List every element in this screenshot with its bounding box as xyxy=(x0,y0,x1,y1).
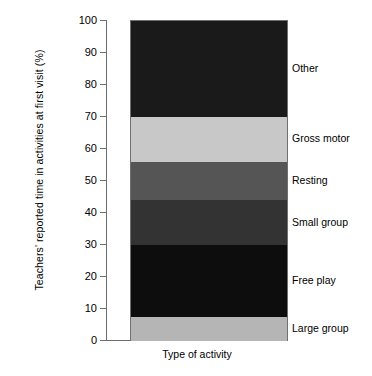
y-tick-mark xyxy=(100,20,106,21)
y-tick-mark xyxy=(100,116,106,117)
y-tick-label: 10 xyxy=(85,302,97,314)
y-tick-label: 70 xyxy=(85,110,97,122)
y-tick-label: 80 xyxy=(85,78,97,90)
y-tick-mark xyxy=(100,212,106,213)
stacked-bar-chart: Teachers' reported time in activities at… xyxy=(0,0,372,376)
segment-label: Other xyxy=(292,62,318,74)
y-axis-line xyxy=(106,20,107,340)
segment-label: Large group xyxy=(292,322,349,334)
y-tick-label: 20 xyxy=(85,270,97,282)
stacked-bar xyxy=(130,20,288,340)
y-tick-label: 100 xyxy=(79,14,97,26)
y-tick-label: 0 xyxy=(91,334,97,346)
segment-label: Free play xyxy=(292,274,336,286)
y-tick-mark xyxy=(100,340,106,341)
y-tick-mark xyxy=(100,180,106,181)
bar-segment xyxy=(131,200,287,245)
segment-label: Gross motor xyxy=(292,132,350,144)
y-tick-label: 40 xyxy=(85,206,97,218)
y-tick-mark xyxy=(100,52,106,53)
y-tick-mark xyxy=(100,276,106,277)
y-axis-title: Teachers' reported time in activities at… xyxy=(26,0,52,340)
segment-label: Small group xyxy=(292,216,348,228)
y-tick-label: 60 xyxy=(85,142,97,154)
y-tick-mark xyxy=(100,308,106,309)
y-tick-mark xyxy=(100,148,106,149)
plot-area: 0102030405060708090100 xyxy=(106,20,288,340)
segment-label: Resting xyxy=(292,174,328,186)
bar-segment xyxy=(131,245,287,317)
y-tick-label: 50 xyxy=(85,174,97,186)
y-tick-label: 90 xyxy=(85,46,97,58)
y-tick-mark xyxy=(100,84,106,85)
bar-segment xyxy=(131,317,287,341)
bar-segment xyxy=(131,117,287,162)
bar-segment xyxy=(131,162,287,200)
bar-segment xyxy=(131,21,287,117)
x-axis-title: Type of activity xyxy=(106,348,288,360)
y-tick-mark xyxy=(100,244,106,245)
y-tick-label: 30 xyxy=(85,238,97,250)
